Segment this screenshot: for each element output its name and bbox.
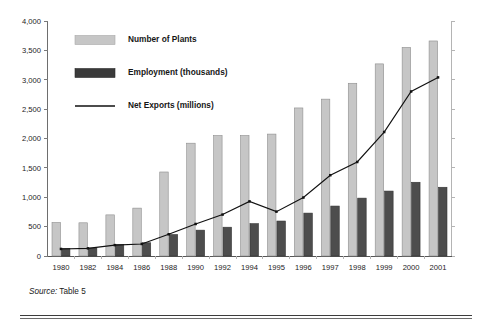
bar-number-of-plants	[133, 208, 141, 256]
bar-employment	[169, 235, 177, 256]
y-tick-label: 1,000	[22, 193, 41, 202]
line-marker-net-exports	[383, 131, 386, 134]
bar-employment	[61, 248, 69, 256]
legend-label: Net Exports (millions)	[128, 100, 214, 110]
line-marker-net-exports	[437, 76, 440, 79]
line-marker-net-exports	[275, 210, 278, 213]
x-tick-label: 1986	[133, 263, 150, 272]
bar-employment	[115, 245, 123, 256]
bar-number-of-plants	[321, 99, 329, 256]
x-tick-label: 1990	[187, 263, 204, 272]
legend-swatch-number-of-plants	[75, 36, 115, 45]
x-tick-label: 1996	[295, 263, 312, 272]
x-tick-label: 1992	[214, 263, 231, 272]
legend-swatch-employment	[75, 69, 115, 78]
y-tick-label: 3,000	[22, 76, 41, 85]
source-label: Source:	[29, 287, 57, 296]
bar-employment	[439, 187, 447, 256]
bar-number-of-plants	[106, 215, 114, 256]
x-tick-label: 1984	[106, 263, 123, 272]
x-tick-label: 1982	[79, 263, 96, 272]
bar-number-of-plants	[267, 134, 275, 256]
line-marker-net-exports	[141, 243, 144, 246]
x-tick-label: 1997	[322, 263, 339, 272]
bar-number-of-plants	[160, 172, 168, 256]
bar-employment	[277, 221, 285, 256]
bar-employment	[223, 227, 231, 256]
bar-employment	[196, 230, 204, 256]
x-tick-label: 1994	[241, 263, 258, 272]
bar-number-of-plants	[429, 41, 437, 256]
chart-plot-container: 05001,0001,5002,0002,5003,0003,5004,0001…	[0, 0, 479, 272]
bar-employment	[250, 224, 258, 256]
line-marker-net-exports	[114, 244, 117, 247]
y-tick-label: 2,000	[22, 134, 41, 143]
bar-employment	[385, 191, 393, 256]
bottom-rule-thick	[20, 315, 472, 316]
source-note: Source: Table 5	[29, 287, 86, 296]
bar-number-of-plants	[187, 143, 195, 256]
y-tick-label: 500	[28, 222, 41, 231]
bar-number-of-plants	[79, 223, 87, 256]
bar-employment	[358, 198, 366, 256]
line-marker-net-exports	[87, 247, 90, 250]
y-tick-label: 4,000	[22, 17, 41, 26]
legend-label: Number of Plants	[128, 34, 197, 44]
combo-bar-line-chart: 05001,0001,5002,0002,5003,0003,5004,0001…	[0, 0, 479, 272]
y-tick-label: 0	[37, 252, 41, 261]
x-tick-label: 2000	[403, 263, 420, 272]
line-marker-net-exports	[60, 248, 63, 251]
bar-employment	[88, 248, 96, 256]
bar-number-of-plants	[214, 136, 222, 256]
bar-employment	[412, 182, 420, 256]
bar-employment	[331, 206, 339, 256]
bar-number-of-plants	[294, 108, 302, 256]
line-marker-net-exports	[302, 196, 305, 199]
x-tick-label: 2001	[430, 263, 447, 272]
bar-employment	[304, 213, 312, 256]
line-marker-net-exports	[410, 90, 413, 93]
line-marker-net-exports	[329, 174, 332, 177]
bottom-rule-thin	[20, 318, 472, 319]
bar-employment	[142, 243, 150, 256]
x-tick-label: 1995	[268, 263, 285, 272]
bar-number-of-plants	[348, 83, 356, 256]
line-marker-net-exports	[194, 223, 197, 226]
y-tick-label: 1,500	[22, 164, 41, 173]
chart-figure: 05001,0001,5002,0002,5003,0003,5004,0001…	[0, 0, 479, 334]
bar-number-of-plants	[402, 47, 410, 256]
bar-number-of-plants	[241, 136, 249, 256]
line-marker-net-exports	[167, 233, 170, 236]
x-tick-label: 1988	[160, 263, 177, 272]
x-tick-label: 1999	[376, 263, 393, 272]
line-marker-net-exports	[221, 213, 224, 216]
line-marker-net-exports	[356, 161, 359, 164]
bottom-rule	[20, 315, 472, 319]
x-tick-label: 1998	[349, 263, 366, 272]
x-tick-label: 1980	[53, 263, 70, 272]
bar-number-of-plants	[375, 64, 383, 256]
line-marker-net-exports	[248, 200, 251, 203]
y-tick-label: 2,500	[22, 105, 41, 114]
legend-label: Employment (thousands)	[128, 67, 228, 77]
source-value: Table 5	[57, 287, 86, 296]
y-tick-label: 3,500	[22, 46, 41, 55]
bar-number-of-plants	[52, 223, 60, 256]
